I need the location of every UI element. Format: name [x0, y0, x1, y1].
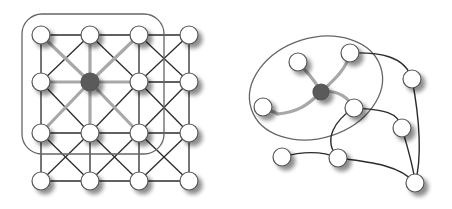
graph-node-right-of-center: [345, 99, 363, 117]
grid-node: [130, 26, 148, 44]
grid-node: [81, 26, 99, 44]
grid-node: [32, 26, 50, 44]
grid-node: [180, 172, 198, 190]
grid-node: [32, 172, 50, 190]
graph-node-top: [341, 44, 359, 62]
grid-node: [130, 172, 148, 190]
graph-node-bottom-left: [273, 148, 291, 166]
grid-node: [32, 124, 50, 142]
graph-node-right-mid: [393, 119, 411, 137]
graph-edge: [338, 158, 415, 183]
grid-node: [180, 73, 198, 91]
center-node: [313, 84, 329, 100]
grid-node: [81, 172, 99, 190]
grid-node: [130, 124, 148, 142]
grid-node: [81, 124, 99, 142]
graph-node-far-right-upper: [403, 70, 421, 88]
graph-node-bottom-right: [406, 174, 424, 192]
graph-node-top-left: [289, 53, 307, 71]
graph-node-left: [254, 98, 272, 116]
graph-node-bottom-mid: [329, 149, 347, 167]
grid-node: [180, 26, 198, 44]
center-node: [81, 73, 99, 91]
grid-node: [130, 73, 148, 91]
grid-node: [32, 73, 50, 91]
graph-neighborhood-diagram: [0, 0, 452, 209]
irregular-graph: [236, 19, 424, 192]
grid-graph: [22, 14, 198, 190]
grid-node: [180, 124, 198, 142]
